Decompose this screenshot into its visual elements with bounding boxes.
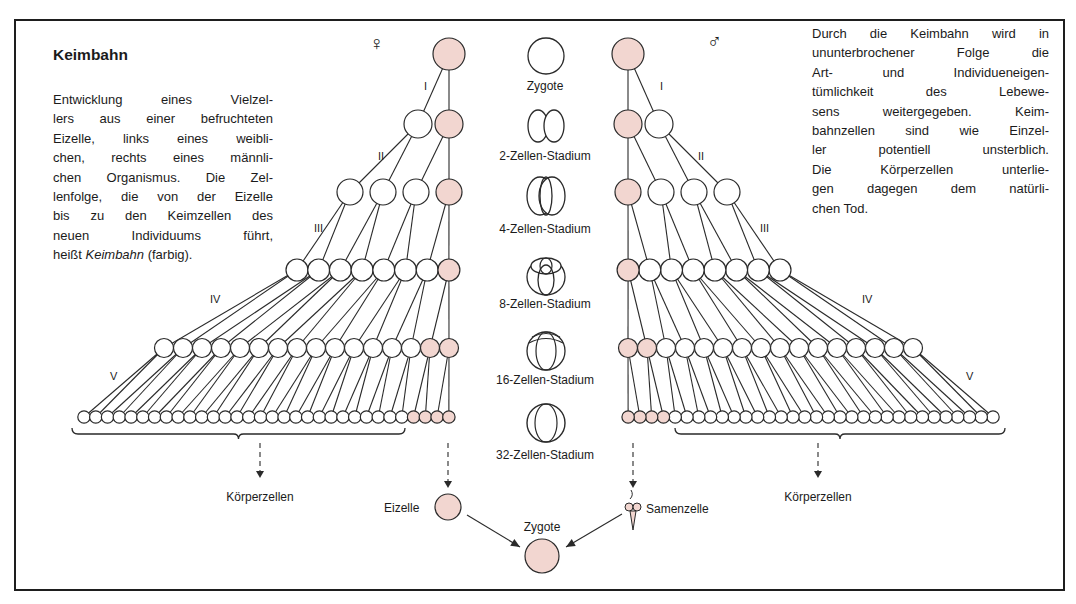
somatic-cell <box>125 411 137 423</box>
lineage-line <box>666 348 675 417</box>
germline-cell <box>419 411 431 423</box>
lineage-line <box>799 348 840 417</box>
lineage-line <box>566 514 622 547</box>
right-description-line: Art- und Individueneigen- <box>812 63 1049 82</box>
somatic-cell <box>975 411 987 423</box>
division-label-left-1: I <box>424 80 427 92</box>
somatic-cell <box>196 411 208 423</box>
germline-cell <box>435 110 463 138</box>
germline-cell <box>617 259 639 281</box>
right-description-line: ler potentiell unsterblich. <box>812 140 1049 159</box>
sperm-cell-label: Samenzelle <box>646 502 709 516</box>
lineage-line <box>650 270 666 348</box>
stage-label-2-cell: 2-Zellen-Stadium <box>499 149 590 163</box>
somatic-cell <box>269 339 288 358</box>
somatic-cell <box>349 411 361 423</box>
somatic-cell <box>155 339 174 358</box>
left-description-last-line: heißt Keimbahn (farbig). <box>53 245 273 264</box>
somatic-cell <box>798 411 810 423</box>
somatic-cell <box>395 259 417 281</box>
somatic-cell <box>160 411 172 423</box>
somatic-cell <box>219 411 231 423</box>
somatic-cell <box>669 411 681 423</box>
somatic-brace-left <box>72 428 405 439</box>
somatic-cell <box>881 411 893 423</box>
germline-cell <box>619 339 638 358</box>
somatic-cell <box>822 411 834 423</box>
lineage-line <box>202 270 319 348</box>
somatic-cell <box>704 411 716 423</box>
somatic-cell <box>212 339 231 358</box>
lineage-line <box>402 348 411 417</box>
somatic-cell <box>351 259 373 281</box>
somatic-cell <box>657 339 676 358</box>
stage-label-4-cell: 4-Zellen-Stadium <box>499 222 590 236</box>
somatic-cell <box>769 259 791 281</box>
somatic-cell <box>751 411 763 423</box>
somatic-cell <box>404 110 432 138</box>
arrow-down-icon <box>256 471 264 478</box>
somatic-cell <box>193 339 212 358</box>
lineage-line <box>259 270 340 348</box>
lineage-line <box>723 348 746 417</box>
somatic-cell <box>78 411 90 423</box>
left-description-line: chen Organismus. Die Zel- <box>53 168 273 187</box>
lineage-line <box>737 270 818 348</box>
somatic-cell <box>866 339 885 358</box>
germline-cell <box>622 411 634 423</box>
lineage-line <box>297 270 362 348</box>
stage-label-zygote: Zygote <box>527 79 564 93</box>
text-fragment: heißt <box>53 247 86 262</box>
somatic-cell <box>172 411 184 423</box>
lineage-line <box>685 348 699 417</box>
somatic-cell <box>307 339 326 358</box>
somatic-cell <box>728 411 740 423</box>
germline-cell <box>634 411 646 423</box>
somatic-cell <box>733 339 752 358</box>
somatic-cell <box>416 259 438 281</box>
somatic-cell <box>254 411 266 423</box>
somatic-cell <box>951 411 963 423</box>
lineage-line <box>335 270 384 348</box>
lineage-line <box>221 270 319 348</box>
lineage-line <box>183 270 297 348</box>
division-label-left-5: V <box>110 370 117 382</box>
two-cell-stage-icon <box>544 110 564 142</box>
lineage-line <box>723 348 758 417</box>
somatic-cell <box>370 179 396 205</box>
lineage-line <box>319 348 354 417</box>
somatic-cell <box>676 339 695 358</box>
somatic-cell <box>308 259 330 281</box>
somatic-cell <box>301 411 313 423</box>
somatic-cell <box>326 339 345 358</box>
lineage-line <box>249 348 297 417</box>
lineage-line <box>672 270 705 348</box>
germline-cell <box>440 339 459 358</box>
division-label-right-5: V <box>966 370 973 382</box>
germline-cell <box>438 259 460 281</box>
somatic-cell <box>987 411 999 423</box>
lineage-line <box>628 270 647 348</box>
lineage-line <box>666 348 687 417</box>
somatic-cell <box>869 411 881 423</box>
somatic-cell <box>857 411 869 423</box>
somatic-cell <box>681 179 707 205</box>
right-description-line: bahnzellen sind wie Einzel- <box>812 121 1049 140</box>
somatic-cell <box>775 411 787 423</box>
somatic-cell <box>695 339 714 358</box>
somatic-cell <box>904 411 916 423</box>
right-description-line: Durch die Keimbahn wird in <box>812 24 1049 43</box>
text-fragment: (farbig). <box>144 247 192 262</box>
somatic-cell <box>916 411 928 423</box>
division-label-left-2: II <box>378 150 384 162</box>
germline-cell <box>407 411 419 423</box>
somatic-cell <box>682 259 704 281</box>
somatic-cell <box>372 411 384 423</box>
germline-cell <box>615 179 641 205</box>
lineage-line <box>390 348 411 417</box>
somatic-cell <box>648 179 674 205</box>
somatic-cell <box>286 259 308 281</box>
somatic-cell <box>809 339 828 358</box>
somatic-cell <box>101 411 113 423</box>
somatic-cell <box>681 411 693 423</box>
